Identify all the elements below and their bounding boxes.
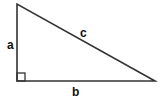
side-b-label: b <box>72 85 79 99</box>
side-c-label: c <box>80 26 87 40</box>
side-a-label: a <box>7 38 14 52</box>
triangle-outline <box>17 4 155 81</box>
right-triangle-diagram: a c b <box>0 0 162 102</box>
right-angle-marker <box>17 73 25 81</box>
